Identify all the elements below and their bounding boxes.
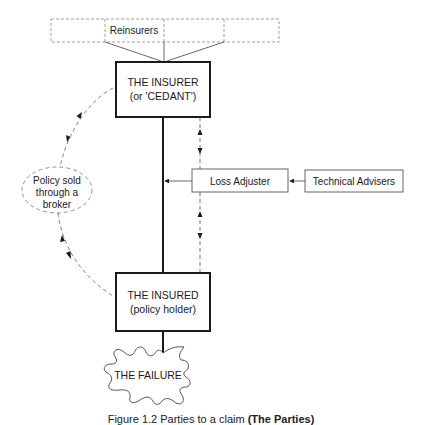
arrow-up-icon [60, 235, 65, 242]
insured-box [116, 273, 210, 331]
broker-line-2: through a [36, 187, 79, 198]
insured-title: THE INSURED [127, 289, 199, 301]
claim-parties-diagram: Reinsurers THE INSURER (or 'CEDANT') Los… [0, 0, 422, 425]
insurer-node: THE INSURER (or 'CEDANT') [116, 62, 210, 117]
reinsurers-label: Reinsurers [110, 25, 158, 36]
broker-line-3: broker [43, 199, 72, 210]
reinsurance-link-right [167, 42, 224, 61]
insured-node: THE INSURED (policy holder) [116, 273, 210, 331]
reinsurance-links [105, 42, 224, 61]
reinsurance-link-left [105, 42, 161, 61]
insurer-title: THE INSURER [127, 76, 199, 88]
arrow-down-icon [66, 251, 71, 259]
loss-adjuster-label: Loss Adjuster [210, 176, 271, 187]
arrow-up-icon [198, 211, 203, 217]
technical-advisers-node: Technical Advisers [305, 170, 403, 192]
arrow-down-icon [198, 148, 203, 154]
insurer-subtitle: (or 'CEDANT') [130, 90, 196, 102]
arrow-up-icon [198, 129, 203, 135]
insured-subtitle: (policy holder) [130, 303, 196, 315]
failure-label: THE FAILURE [114, 369, 182, 381]
broker-node: Policy sold through a broker [22, 167, 92, 213]
arrow-down-icon [198, 233, 203, 239]
caption-bold-text: (The Parties) [248, 413, 315, 425]
loss-adjuster-node: Loss Adjuster [192, 169, 288, 192]
reinsurers-group: Reinsurers [51, 19, 279, 42]
failure-node: THE FAILURE [104, 347, 190, 405]
broker-insured-link [58, 213, 113, 296]
broker-insurer-link [60, 88, 113, 167]
figure-caption: Figure 1.2 Parties to a claim (The Parti… [0, 413, 422, 425]
reinsurers-strip [51, 19, 279, 42]
caption-text: Figure 1.2 Parties to a claim [108, 413, 245, 425]
broker-line-1: Policy sold [33, 175, 81, 186]
technical-advisers-label: Technical Advisers [313, 176, 395, 187]
